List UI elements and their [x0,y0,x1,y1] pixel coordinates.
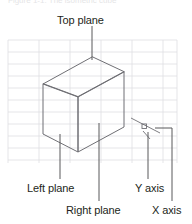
cube-top-plane [43,57,124,97]
label-top-plane: Top plane [57,14,104,26]
label-x-axis: X axis [152,204,181,216]
label-right-plane: Right plane [66,204,121,216]
isometric-cube-icon [43,57,124,152]
axis-stub-line [143,131,150,139]
label-left-plane: Left plane [27,182,74,194]
label-y-axis: Y axis [135,182,164,194]
figure-container: Figure 1-1: The isometric cube [0,0,192,224]
axis-diagonal-line [131,118,160,133]
